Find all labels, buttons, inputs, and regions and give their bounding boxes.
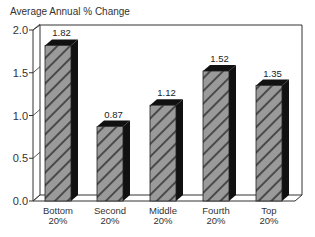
y-tick-label: 1.5 xyxy=(13,67,28,79)
x-tick-label: 20% xyxy=(153,215,173,226)
bar-bottom: 1.82 xyxy=(45,27,78,201)
x-tick-label: 20% xyxy=(259,215,279,226)
bar-second: 0.87 xyxy=(97,109,130,201)
x-tick-label: 20% xyxy=(48,215,68,226)
value-label: 1.12 xyxy=(157,87,176,98)
bar-fourth: 1.52 xyxy=(203,53,236,201)
value-label: 0.87 xyxy=(104,109,123,120)
bar-series: 1.820.871.121.521.35 xyxy=(45,27,289,201)
value-label: 1.52 xyxy=(210,53,229,64)
y-tick-label: 0.5 xyxy=(13,152,28,164)
value-label: 1.82 xyxy=(52,27,71,38)
y-axis: 0.00.51.01.52.0 xyxy=(13,24,40,207)
bar-middle: 1.12 xyxy=(150,87,183,201)
bar-top: 1.35 xyxy=(256,68,289,201)
y-tick-label: 1.0 xyxy=(13,110,28,122)
x-tick-label: 20% xyxy=(100,215,120,226)
y-tick-label: 2.0 xyxy=(13,24,28,36)
x-tick-label: 20% xyxy=(206,215,226,226)
bar-chart: 0.00.51.01.52.0 1.820.871.121.521.35 Bot… xyxy=(0,0,315,237)
x-axis-labels: Bottom20%Second20%Middle20%Fourth20%Top2… xyxy=(43,205,279,226)
value-label: 1.35 xyxy=(263,68,282,79)
y-tick-label: 0.0 xyxy=(13,195,28,207)
